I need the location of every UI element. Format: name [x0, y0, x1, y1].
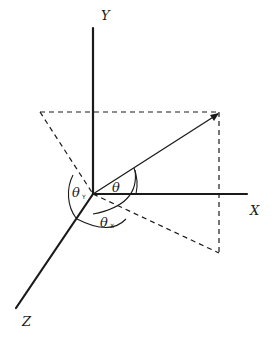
svg-text:Y: Y: [81, 193, 86, 200]
theta-y-label: θ Y: [72, 185, 86, 200]
x-axis-label: X: [249, 203, 260, 218]
svg-text:θ: θ: [72, 185, 80, 200]
z-axis: [16, 194, 93, 308]
theta-x-label: θ X: [100, 215, 114, 230]
svg-text:θ: θ: [100, 215, 108, 230]
theta-label: θ: [112, 180, 120, 195]
z-axis-label: Z: [21, 314, 32, 329]
dashed-left-edge: [40, 112, 93, 194]
svg-text:X: X: [110, 222, 114, 229]
y-axis-label: Y: [101, 8, 111, 23]
direction-angle-diagram: Y X Z θ θ Y θ X: [0, 0, 274, 337]
vector-arrowhead-icon: [210, 113, 219, 121]
